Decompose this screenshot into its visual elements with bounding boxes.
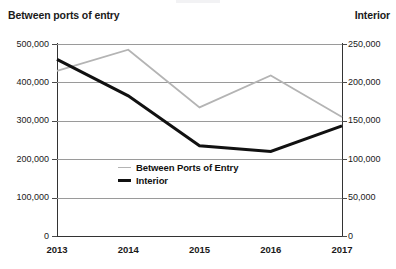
right-axis-tick-label: 200,000 — [348, 78, 381, 87]
legend-swatch-icon — [118, 179, 131, 182]
x-axis-tick-label: 2015 — [180, 245, 220, 255]
series-line — [57, 59, 342, 151]
axis-tick — [342, 159, 347, 160]
legend-item: Interior — [118, 174, 238, 187]
right-axis-tick-label: 100,000 — [348, 155, 381, 164]
axis-tick — [342, 82, 347, 83]
axis-tick — [52, 236, 57, 237]
left-axis-tick-label: 300,000 — [16, 116, 49, 125]
right-axis-tick-label: 250,000 — [348, 40, 381, 49]
right-axis-line — [342, 43, 343, 237]
legend-item: Between Ports of Entry — [118, 161, 238, 174]
right-axis-tick-label: 0 — [348, 232, 353, 241]
scan-artifact — [176, 0, 220, 3]
x-axis-tick-label: 2016 — [251, 245, 291, 255]
left-axis-title: Between ports of entry — [8, 9, 120, 21]
x-axis-tick-label: 2013 — [37, 245, 77, 255]
legend-item-label: Interior — [136, 175, 168, 186]
gridline — [57, 236, 342, 237]
right-axis-tick-label: 50,000 — [348, 193, 376, 202]
left-axis-tick-label: 200,000 — [16, 155, 49, 164]
chart-legend: Between Ports of EntryInterior — [118, 161, 238, 187]
axis-tick — [342, 44, 347, 45]
legend-item-label: Between Ports of Entry — [136, 162, 238, 173]
right-axis-title: Interior — [355, 9, 390, 21]
series-line — [57, 50, 342, 117]
x-axis-tick-label: 2014 — [108, 245, 148, 255]
plot-area — [57, 44, 342, 236]
left-axis-tick-label: 100,000 — [16, 193, 49, 202]
left-axis-tick-label: 0 — [44, 232, 49, 241]
axis-tick — [342, 121, 347, 122]
axis-tick — [342, 198, 347, 199]
chart-page: Between ports of entry Interior 0100,000… — [0, 0, 396, 269]
left-axis-tick-label: 400,000 — [16, 78, 49, 87]
series-lines — [57, 44, 342, 236]
right-axis-tick-label: 150,000 — [348, 116, 381, 125]
x-axis-tick-label: 2017 — [322, 245, 362, 255]
legend-swatch-icon — [118, 167, 131, 168]
left-axis-tick-label: 500,000 — [16, 40, 49, 49]
axis-tick — [342, 236, 347, 237]
